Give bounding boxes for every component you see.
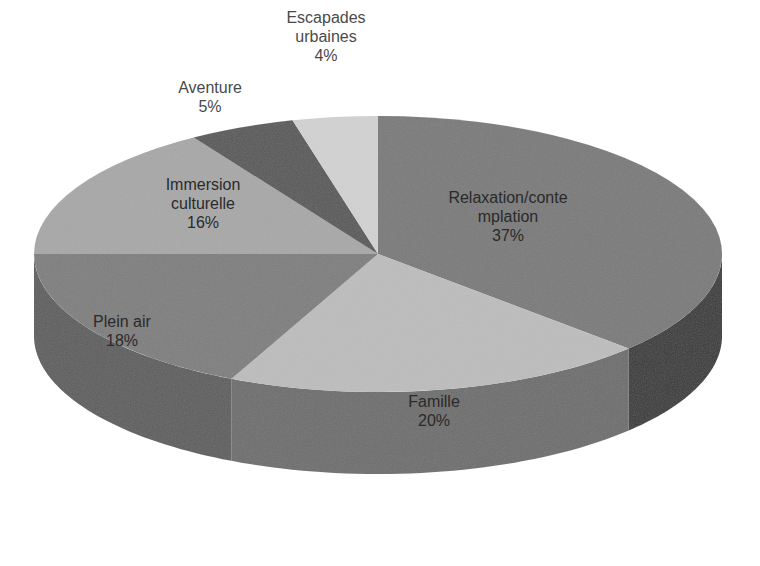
label-immersion-culturelle: Immersionculturelle16% xyxy=(166,175,241,232)
label-line: Immersion xyxy=(166,175,241,194)
label-aventure: Aventure5% xyxy=(178,78,242,116)
label-line: 20% xyxy=(408,411,460,430)
label-line: Escapades xyxy=(286,8,365,27)
label-line: 18% xyxy=(93,331,151,350)
label-line: 16% xyxy=(166,213,241,232)
label-line: Aventure xyxy=(178,78,242,97)
pie-top-slices xyxy=(34,116,722,392)
label-line: culturelle xyxy=(166,194,241,213)
label-line: 5% xyxy=(178,97,242,116)
label-line: Relaxation/conte xyxy=(448,188,567,207)
label-line: urbaines xyxy=(286,27,365,46)
label-relaxation-contemplation: Relaxation/contemplation37% xyxy=(448,188,567,245)
label-plein-air: Plein air18% xyxy=(93,312,151,350)
label-line: Plein air xyxy=(93,312,151,331)
label-escapades-urbaines: Escapadesurbaines4% xyxy=(286,8,365,65)
label-line: mplation xyxy=(448,207,567,226)
label-line: 37% xyxy=(448,226,567,245)
label-famille: Famille20% xyxy=(408,392,460,430)
label-line: Famille xyxy=(408,392,460,411)
label-line: 4% xyxy=(286,46,365,65)
pie-chart-3d xyxy=(0,0,760,566)
